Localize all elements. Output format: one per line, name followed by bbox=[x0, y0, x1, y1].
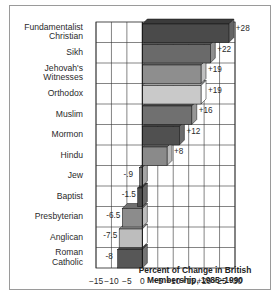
bar-top-face bbox=[142, 19, 233, 24]
category-label: Mormon bbox=[0, 130, 83, 140]
value-label: +16 bbox=[199, 106, 213, 115]
bar bbox=[142, 24, 228, 43]
value-label: +19 bbox=[208, 65, 222, 74]
category-label: Hindu bbox=[0, 151, 83, 161]
category-label: Roman Catholic bbox=[0, 248, 83, 267]
value-label: -8 bbox=[106, 252, 113, 261]
value-label: -1.5 bbox=[122, 190, 136, 199]
category-label: Jew bbox=[0, 171, 83, 181]
category-label: Muslim bbox=[0, 110, 83, 120]
category-label: Orthodox bbox=[0, 89, 83, 99]
category-label: Presbyterian bbox=[0, 212, 83, 222]
category-label: Baptist bbox=[0, 192, 83, 202]
x-axis-title: Percent of Change in British Membership,… bbox=[110, 265, 278, 285]
value-label: +22 bbox=[217, 45, 231, 54]
x-tick-label: −15 bbox=[89, 276, 103, 286]
category-label: Fundamentalist Christian bbox=[0, 23, 83, 42]
bar bbox=[142, 45, 210, 64]
bar bbox=[119, 229, 142, 248]
value-label: -.9 bbox=[124, 170, 134, 179]
category-label: Jehovah's Witnesses bbox=[0, 64, 83, 83]
value-label: +8 bbox=[174, 147, 183, 156]
value-label: +28 bbox=[236, 24, 250, 33]
bar bbox=[142, 106, 191, 125]
bar bbox=[142, 127, 179, 146]
value-label: +12 bbox=[186, 127, 200, 136]
category-label: Sikh bbox=[0, 48, 83, 58]
bar bbox=[138, 188, 143, 207]
category-label: Anglican bbox=[0, 233, 83, 243]
value-label: +19 bbox=[208, 86, 222, 95]
bar bbox=[142, 65, 201, 84]
bar bbox=[142, 86, 201, 105]
bar bbox=[122, 209, 142, 228]
value-label: -6.5 bbox=[106, 211, 120, 220]
bar bbox=[142, 147, 167, 166]
value-label: -7.5 bbox=[103, 231, 117, 240]
